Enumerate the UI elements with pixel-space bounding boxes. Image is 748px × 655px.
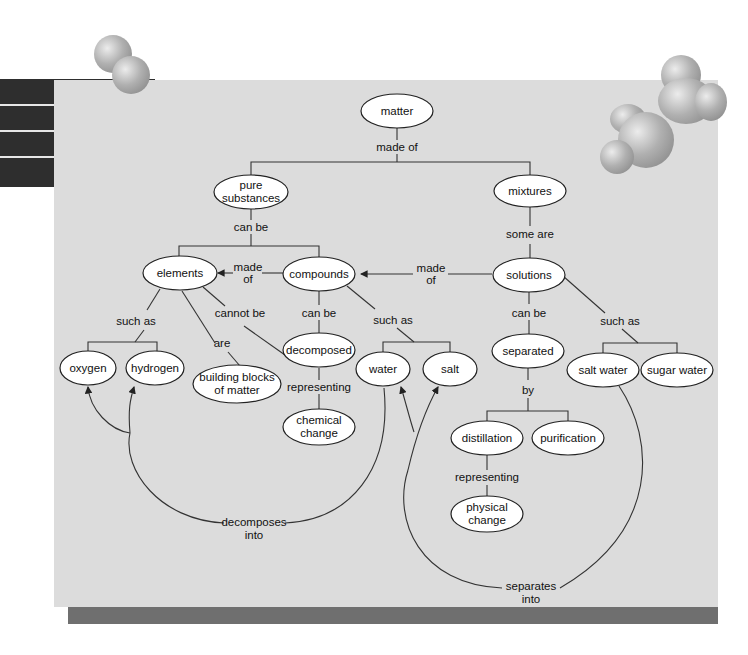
link-label: representing [287,381,351,393]
node-hydrogen: hydrogen [126,351,184,385]
node-water: water [356,352,410,386]
node-label: water [368,363,397,375]
node-label: separated [502,345,553,357]
link-label: made [234,261,263,273]
node-label: decomposed [286,344,352,356]
link-label: into [522,593,541,605]
node-physical-change: physical change [451,496,523,532]
node-separated: separated [492,334,564,368]
node-label: change [468,514,506,526]
node-label: hydrogen [131,362,179,374]
node-salt: salt [423,352,477,386]
node-label: physical [466,501,508,513]
link-label: can be [302,307,337,319]
node-purification: purification [532,421,604,455]
link-label: such as [116,315,156,327]
node-label: pure [239,179,262,191]
node-label: mixtures [508,185,552,197]
node-mixtures: mixtures [494,175,566,207]
node-decomposed: decomposed [283,333,355,367]
node-label: salt [441,363,460,375]
node-solutions: solutions [493,258,565,292]
node-label: sugar water [647,364,707,376]
link-label: representing [455,471,519,483]
node-label: salt water [578,364,627,376]
link-label: of [243,273,253,285]
link-label: such as [373,314,413,326]
node-chemical-change: chemical change [283,409,355,445]
node-compounds: compounds [283,257,355,291]
link-label: of [426,274,436,286]
link-label: made of [376,141,418,153]
node-label: solutions [506,269,552,281]
node-label: compounds [289,268,349,280]
node-pure-substances: pure substances [214,175,288,209]
node-salt-water: salt water [567,353,639,387]
link-label: are [214,337,231,349]
link-label: into [245,529,264,541]
node-label: change [300,427,338,439]
node-label: matter [381,105,414,117]
node-matter: matter [361,94,433,128]
node-label: of matter [214,384,260,396]
node-label: oxygen [69,362,106,374]
node-label: building blocks [199,371,275,383]
node-oxygen: oxygen [60,351,116,385]
node-label: elements [157,267,204,279]
node-sugar-water: sugar water [641,353,713,387]
node-label: chemical [296,414,341,426]
link-label: made [417,262,446,274]
concept-map: matter pure substances mixtures elements… [0,0,748,655]
node-label: purification [540,432,596,444]
link-label: can be [512,307,547,319]
node-label: substances [222,192,280,204]
link-label: by [522,384,534,396]
link-label: separates [506,580,557,592]
node-elements: elements [143,256,217,290]
node-label: distillation [462,432,513,444]
node-distillation: distillation [451,421,523,455]
link-label: cannot be [215,307,266,319]
link-label: decomposes [221,516,286,528]
link-label: some are [506,228,554,240]
node-building-blocks: building blocks of matter [193,365,281,403]
link-label: can be [234,221,269,233]
link-label: such as [600,315,640,327]
